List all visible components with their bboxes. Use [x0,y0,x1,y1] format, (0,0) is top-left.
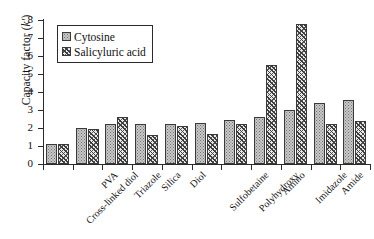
x-label-silica: Silica [160,170,183,193]
x-tick [221,165,222,170]
bar-aspartamide-salicyluric-acid [355,121,366,164]
bar-group-polyhydroxy [224,20,248,164]
bar-group-diol [165,20,189,164]
x-tick [43,165,44,170]
legend-swatch-cytosine-icon [62,32,71,41]
y-tick-label: 8 [11,14,33,25]
legend-item-cytosine: Cytosine [62,29,146,44]
bar-chart: Capacity factor (k') 012345678 Cross-lin… [0,0,374,239]
bar-diol-salicyluric-acid [177,126,188,164]
bar-group-aspartamide [343,20,367,164]
bar-diol-cytosine [165,124,176,164]
y-tick-label: 0 [11,158,33,169]
bar-pva-salicyluric-acid [88,129,99,164]
y-tick-label: 6 [11,50,33,61]
bar-sulfobetaine-salicyluric-acid [207,134,218,164]
x-tick [192,165,193,170]
y-tick-label: 2 [11,122,33,133]
bar-cross-linked-diol-salicyluric-acid [58,144,69,164]
y-tick-label: 1 [11,140,33,151]
x-label-amino: Amino [280,170,307,197]
legend-label-salicyluric-acid: Salicyluric acid [74,46,146,58]
legend-label-cytosine: Cytosine [74,31,115,43]
bar-imidazole-cytosine [284,110,295,164]
bar-aspartamide-cytosine [343,100,354,164]
bar-imidazole-salicyluric-acid [296,24,307,164]
bar-polyhydroxy-cytosine [224,120,235,164]
bar-amino-salicyluric-acid [266,65,277,164]
bar-group-amide [314,20,338,164]
bar-cross-linked-diol-cytosine [46,144,57,164]
bar-silica-cytosine [135,124,146,164]
x-axis-line [43,164,371,165]
x-tick [73,165,74,170]
legend-item-salicyluric-acid: Salicyluric acid [62,44,146,59]
x-tick [281,165,282,170]
bar-group-imidazole [284,20,308,164]
y-tick-label: 5 [11,68,33,79]
bar-group-sulfobetaine [195,20,219,164]
bar-group-amino [254,20,278,164]
bar-pva-cytosine [76,128,87,164]
bar-sulfobetaine-cytosine [195,123,206,164]
y-tick-label: 7 [11,32,33,43]
bar-triazole-salicyluric-acid [117,117,128,164]
bar-amide-salicyluric-acid [326,124,337,164]
x-label-diol: Diol [188,170,208,190]
legend-swatch-salicyluric-acid-icon [62,47,71,56]
x-tick [251,165,252,170]
y-tick-label: 4 [11,86,33,97]
bar-silica-salicyluric-acid [147,135,158,164]
x-tick [311,165,312,170]
x-tick [102,165,103,170]
chart-legend: Cytosine Salicyluric acid [57,25,153,63]
bar-amide-cytosine [314,103,325,164]
x-tick [370,165,371,170]
x-tick [162,165,163,170]
bar-amino-cytosine [254,117,265,164]
y-tick-label: 3 [11,104,33,115]
bar-polyhydroxy-salicyluric-acid [236,124,247,164]
bar-triazole-cytosine [105,124,116,164]
